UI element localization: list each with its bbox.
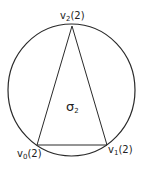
- vertex-label-v2: v2(2): [60, 10, 85, 23]
- circumscribed-circle: [8, 24, 135, 156]
- diagram: v2(2) v0(2) v1(2) σ2: [0, 0, 143, 172]
- vertex-label-v0: v0(2): [17, 148, 42, 161]
- simplex-triangle: [37, 26, 107, 145]
- vertex-label-v1: v1(2): [108, 144, 133, 157]
- face-label-sigma: σ2: [66, 99, 79, 115]
